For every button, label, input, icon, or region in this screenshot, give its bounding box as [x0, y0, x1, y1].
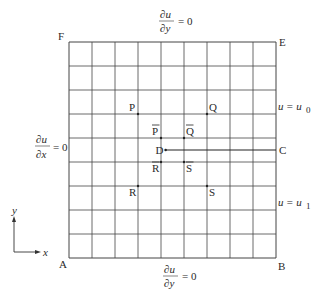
finite-difference-grid-diagram: DC PQPQRSRS F E A B ∂u ∂y = 0 ∂u ∂y = 0 …	[0, 0, 316, 293]
point-label-r: R	[129, 186, 137, 198]
top-boundary-condition: ∂u ∂y = 0	[159, 8, 193, 34]
left-bc-numerator: ∂u	[36, 133, 47, 145]
x-axis-label: x	[42, 246, 48, 258]
x-axis-arrowhead	[35, 250, 41, 254]
right-lower-bc-rhs: = u	[286, 196, 302, 208]
point-label-s: S	[209, 186, 215, 198]
y-axis-label: y	[11, 204, 17, 216]
point-label-s-bar: S	[186, 162, 192, 174]
right-lower-boundary-condition: u = u 1	[278, 196, 311, 211]
grid-point-s-bar	[183, 161, 185, 163]
bottom-bc-denominator: ∂y	[164, 277, 174, 289]
top-bc-denominator: ∂y	[160, 22, 170, 34]
right-upper-boundary-condition: u = u 0	[278, 100, 311, 115]
bottom-bc-numerator: ∂u	[164, 263, 175, 275]
corner-label-a: A	[59, 258, 67, 270]
bottom-boundary-condition: ∂u ∂y = 0	[163, 263, 197, 289]
crack-line-d-to-c: DC	[156, 144, 287, 156]
grid-point-q	[206, 113, 208, 115]
grid-point-p-bar	[160, 137, 162, 139]
crack-start-dot	[164, 149, 167, 152]
right-upper-bc-subscript: 0	[306, 105, 311, 115]
bottom-bc-rhs: = 0	[182, 270, 197, 282]
left-bc-denominator: ∂x	[36, 148, 46, 160]
point-label-p: P	[129, 101, 135, 113]
point-label-p-bar: P	[152, 125, 158, 137]
y-axis-arrowhead	[12, 216, 16, 222]
point-label-r-bar: R	[152, 162, 160, 174]
right-upper-bc-rhs: = u	[286, 100, 302, 112]
point-label-q-bar: Q	[186, 125, 194, 137]
right-upper-bc-lhs: u	[278, 100, 284, 112]
point-label-c: C	[279, 144, 286, 156]
grid-point-r	[137, 185, 139, 187]
grid-point-p	[137, 113, 139, 115]
point-label-q: Q	[209, 101, 217, 113]
top-bc-numerator: ∂u	[160, 8, 171, 20]
corner-label-e: E	[279, 36, 286, 48]
coordinate-axes: y x	[11, 204, 48, 258]
left-bc-rhs: = 0	[53, 141, 68, 153]
grid-point-r-bar	[160, 161, 162, 163]
right-lower-bc-lhs: u	[278, 196, 284, 208]
point-label-d: D	[156, 144, 164, 156]
left-boundary-condition: ∂u ∂x = 0	[35, 133, 68, 160]
top-bc-rhs: = 0	[178, 15, 193, 27]
right-lower-bc-subscript: 1	[306, 201, 311, 211]
corner-label-b: B	[278, 260, 285, 272]
corner-label-f: F	[58, 30, 64, 42]
grid-point-s	[206, 185, 208, 187]
grid-point-q-bar	[183, 137, 185, 139]
